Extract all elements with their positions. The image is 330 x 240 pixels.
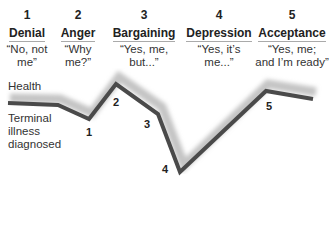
diagnosis-line: Terminal [8, 112, 61, 125]
health-label: Health [8, 80, 41, 93]
diagnosis-label: Terminal illness diagnosed [8, 112, 61, 151]
point-label-5: 5 [266, 100, 272, 112]
point-label-3: 3 [144, 118, 150, 130]
point-label-2: 2 [113, 96, 119, 108]
point-label-1: 1 [86, 126, 92, 138]
diagnosis-line: diagnosed [8, 138, 61, 151]
diagnosis-line: illness [8, 125, 61, 138]
point-label-4: 4 [162, 163, 168, 175]
